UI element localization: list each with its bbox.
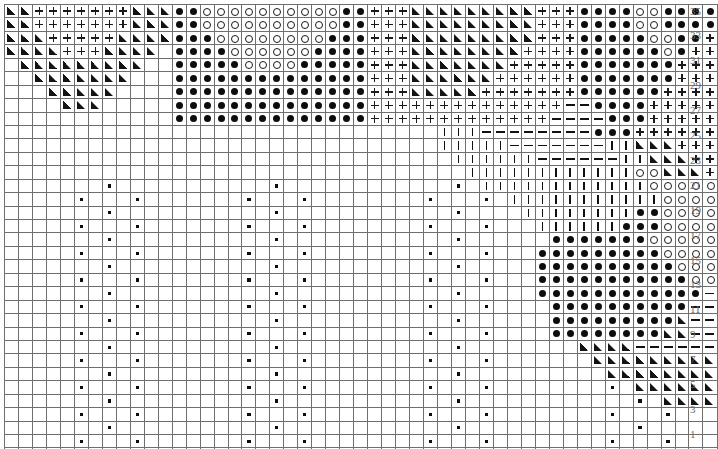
chart-cell-empty-cell[interactable] [214, 300, 228, 313]
chart-cell-empty-cell[interactable] [200, 193, 214, 206]
chart-cell-small-dot-symbol[interactable] [74, 273, 88, 286]
chart-cell-empty-cell[interactable] [312, 166, 326, 179]
chart-cell-empty-cell[interactable] [284, 125, 298, 138]
chart-cell-empty-cell[interactable] [465, 421, 479, 434]
chart-cell-empty-cell[interactable] [521, 327, 535, 340]
chart-cell-empty-cell[interactable] [452, 166, 466, 179]
chart-cell-empty-cell[interactable] [172, 340, 186, 353]
chart-cell-filled-circle-symbol[interactable] [270, 99, 284, 112]
chart-cell-plus-symbol[interactable] [424, 112, 438, 125]
chart-cell-empty-cell[interactable] [493, 367, 507, 380]
chart-cell-empty-cell[interactable] [438, 206, 452, 219]
chart-cell-empty-cell[interactable] [354, 421, 368, 434]
chart-cell-small-dot-symbol[interactable] [298, 327, 312, 340]
chart-cell-empty-cell[interactable] [88, 233, 102, 246]
chart-cell-empty-cell[interactable] [5, 246, 19, 259]
chart-cell-vertical-bar-symbol[interactable] [619, 166, 633, 179]
chart-cell-filled-circle-symbol[interactable] [605, 58, 619, 71]
chart-cell-filled-circle-symbol[interactable] [172, 85, 186, 98]
chart-cell-empty-cell[interactable] [74, 233, 88, 246]
chart-cell-empty-cell[interactable] [158, 193, 172, 206]
chart-cell-filled-circle-symbol[interactable] [619, 72, 633, 85]
chart-cell-open-circle-symbol[interactable] [242, 31, 256, 44]
chart-cell-vertical-bar-symbol[interactable] [493, 179, 507, 192]
chart-cell-empty-cell[interactable] [200, 179, 214, 192]
chart-cell-empty-cell[interactable] [102, 112, 116, 125]
chart-cell-triangle-symbol[interactable] [60, 85, 74, 98]
chart-cell-empty-cell[interactable] [438, 354, 452, 367]
chart-cell-empty-cell[interactable] [270, 220, 284, 233]
chart-cell-empty-cell[interactable] [200, 233, 214, 246]
chart-cell-empty-cell[interactable] [256, 394, 270, 407]
chart-cell-empty-cell[interactable] [605, 421, 619, 434]
chart-cell-filled-circle-symbol[interactable] [200, 112, 214, 125]
chart-cell-empty-cell[interactable] [18, 246, 32, 259]
chart-cell-open-circle-symbol[interactable] [298, 5, 312, 18]
chart-cell-empty-cell[interactable] [74, 394, 88, 407]
chart-cell-triangle-symbol[interactable] [144, 45, 158, 58]
chart-cell-empty-cell[interactable] [228, 246, 242, 259]
chart-cell-empty-cell[interactable] [493, 233, 507, 246]
chart-cell-filled-circle-symbol[interactable] [591, 246, 605, 259]
chart-cell-empty-cell[interactable] [228, 152, 242, 165]
chart-cell-empty-cell[interactable] [270, 193, 284, 206]
chart-cell-filled-circle-symbol[interactable] [172, 72, 186, 85]
chart-cell-triangle-symbol[interactable] [410, 85, 424, 98]
chart-cell-empty-cell[interactable] [172, 408, 186, 421]
chart-cell-triangle-symbol[interactable] [438, 18, 452, 31]
chart-cell-filled-circle-symbol[interactable] [647, 72, 661, 85]
chart-cell-empty-cell[interactable] [214, 220, 228, 233]
chart-cell-triangle-symbol[interactable] [116, 58, 130, 71]
chart-cell-empty-cell[interactable] [354, 139, 368, 152]
chart-cell-open-circle-symbol[interactable] [228, 45, 242, 58]
chart-cell-empty-cell[interactable] [200, 220, 214, 233]
chart-cell-filled-circle-symbol[interactable] [647, 287, 661, 300]
chart-cell-empty-cell[interactable] [214, 139, 228, 152]
chart-cell-empty-cell[interactable] [88, 435, 102, 448]
chart-cell-open-circle-symbol[interactable] [298, 45, 312, 58]
chart-cell-empty-cell[interactable] [535, 327, 549, 340]
chart-cell-filled-circle-symbol[interactable] [256, 72, 270, 85]
chart-cell-plus-symbol[interactable] [116, 18, 130, 31]
chart-cell-empty-cell[interactable] [549, 435, 563, 448]
chart-cell-small-dot-symbol[interactable] [661, 408, 675, 421]
chart-cell-empty-cell[interactable] [32, 327, 46, 340]
chart-cell-empty-cell[interactable] [242, 394, 256, 407]
chart-cell-plus-symbol[interactable] [549, 5, 563, 18]
chart-cell-open-circle-symbol[interactable] [675, 233, 689, 246]
chart-cell-empty-cell[interactable] [32, 381, 46, 394]
chart-cell-empty-cell[interactable] [200, 152, 214, 165]
chart-cell-triangle-symbol[interactable] [32, 72, 46, 85]
chart-cell-empty-cell[interactable] [158, 367, 172, 380]
chart-cell-empty-cell[interactable] [60, 220, 74, 233]
chart-cell-small-dot-symbol[interactable] [102, 233, 116, 246]
chart-cell-filled-circle-symbol[interactable] [647, 273, 661, 286]
chart-cell-empty-cell[interactable] [284, 260, 298, 273]
chart-cell-small-dot-symbol[interactable] [298, 408, 312, 421]
chart-cell-empty-cell[interactable] [284, 287, 298, 300]
chart-cell-empty-cell[interactable] [507, 260, 521, 273]
chart-cell-empty-cell[interactable] [382, 367, 396, 380]
chart-cell-empty-cell[interactable] [158, 220, 172, 233]
chart-cell-empty-cell[interactable] [18, 233, 32, 246]
chart-cell-empty-cell[interactable] [396, 139, 410, 152]
chart-cell-triangle-symbol[interactable] [605, 354, 619, 367]
chart-cell-plus-symbol[interactable] [675, 85, 689, 98]
chart-cell-plus-symbol[interactable] [382, 112, 396, 125]
chart-cell-empty-cell[interactable] [74, 125, 88, 138]
chart-cell-triangle-symbol[interactable] [619, 340, 633, 353]
chart-cell-empty-cell[interactable] [410, 340, 424, 353]
chart-cell-triangle-symbol[interactable] [74, 58, 88, 71]
chart-cell-empty-cell[interactable] [46, 260, 60, 273]
chart-cell-empty-cell[interactable] [368, 340, 382, 353]
chart-cell-empty-cell[interactable] [493, 394, 507, 407]
chart-cell-empty-cell[interactable] [284, 166, 298, 179]
chart-cell-triangle-symbol[interactable] [493, 45, 507, 58]
chart-cell-triangle-symbol[interactable] [661, 394, 675, 407]
chart-cell-filled-circle-symbol[interactable] [633, 246, 647, 259]
chart-cell-empty-cell[interactable] [284, 408, 298, 421]
chart-cell-empty-cell[interactable] [396, 340, 410, 353]
chart-cell-vertical-bar-symbol[interactable] [605, 179, 619, 192]
chart-cell-empty-cell[interactable] [88, 314, 102, 327]
chart-cell-empty-cell[interactable] [410, 260, 424, 273]
